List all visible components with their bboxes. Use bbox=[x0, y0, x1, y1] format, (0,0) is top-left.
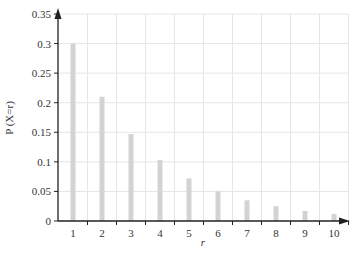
y-tick-label: 0.2 bbox=[37, 97, 51, 109]
x-tick-label: 7 bbox=[244, 227, 250, 239]
x-tick-label: 5 bbox=[186, 227, 192, 239]
y-tick-label: 0.3 bbox=[37, 38, 51, 50]
y-axis-label: P (X=r) bbox=[3, 101, 16, 135]
x-tick-label: 3 bbox=[128, 227, 134, 239]
bar-chart: 00.050.10.150.20.250.30.35 12345678910 r… bbox=[0, 0, 355, 254]
x-tick-label: 9 bbox=[302, 227, 308, 239]
bar-r-3 bbox=[129, 134, 134, 221]
bar-r-7 bbox=[245, 200, 250, 221]
axes bbox=[55, 8, 351, 225]
bar-r-9 bbox=[303, 211, 308, 221]
x-tick-label: 10 bbox=[329, 227, 341, 239]
x-tick-label: 2 bbox=[99, 227, 105, 239]
bar-r-8 bbox=[274, 206, 279, 221]
y-tick-label: 0.25 bbox=[32, 67, 52, 79]
x-tick-label: 6 bbox=[215, 227, 221, 239]
bar-r-4 bbox=[158, 160, 163, 221]
y-tick-label: 0.1 bbox=[37, 156, 51, 168]
y-tick-label: 0.15 bbox=[32, 126, 52, 138]
x-tick-label: 1 bbox=[70, 227, 76, 239]
bar-r-10 bbox=[332, 214, 337, 221]
bar-r-6 bbox=[216, 191, 221, 221]
y-tick-label: 0 bbox=[46, 215, 52, 227]
x-tick-label: 4 bbox=[157, 227, 163, 239]
x-axis-label: r bbox=[201, 236, 206, 248]
y-ticks: 00.050.10.150.20.250.30.35 bbox=[32, 8, 58, 227]
bar-r-5 bbox=[187, 178, 192, 221]
x-ticks: 12345678910 bbox=[70, 221, 348, 239]
y-tick-label: 0.35 bbox=[32, 8, 52, 20]
x-tick-label: 8 bbox=[273, 227, 279, 239]
bar-r-2 bbox=[100, 97, 105, 221]
bar-r-1 bbox=[71, 44, 76, 221]
y-tick-label: 0.05 bbox=[32, 185, 52, 197]
